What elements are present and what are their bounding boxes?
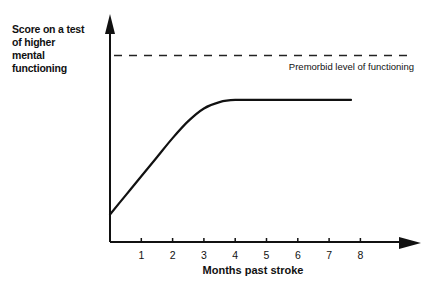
y-axis-arrow-icon <box>105 14 115 34</box>
recovery-curve <box>110 100 351 215</box>
premorbid-reference-label: Premorbid level of functioning <box>289 61 414 72</box>
axes <box>105 14 421 249</box>
x-tick-label: 5 <box>264 249 270 261</box>
x-tick-labels: 12345678 <box>138 249 363 261</box>
x-tick-label: 3 <box>201 249 207 261</box>
x-tick-label: 7 <box>326 249 332 261</box>
x-tick-label: 6 <box>295 249 301 261</box>
x-axis-label: Months past stroke <box>203 264 304 276</box>
x-tick-label: 2 <box>170 249 176 261</box>
x-tick-label: 1 <box>138 249 144 261</box>
x-tick-label: 8 <box>357 249 363 261</box>
series-group <box>110 100 351 215</box>
chart: 12345678 Premorbid level of functioning … <box>0 0 432 288</box>
reference-lines: Premorbid level of functioning <box>114 55 414 72</box>
x-axis-arrow-icon <box>399 237 421 249</box>
x-tick-label: 4 <box>232 249 238 261</box>
